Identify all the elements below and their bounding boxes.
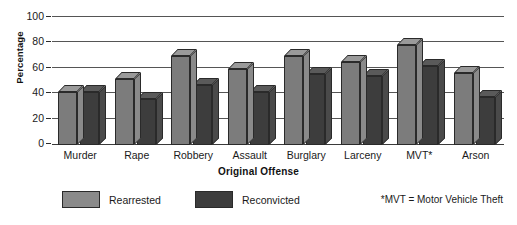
bar-side bbox=[473, 66, 480, 145]
y-tick-mark-60 bbox=[46, 67, 51, 68]
bar-group bbox=[222, 16, 279, 145]
y-tick-mark-20 bbox=[46, 118, 51, 119]
y-tick-mark-80 bbox=[46, 41, 51, 42]
bar-side bbox=[247, 62, 254, 145]
bar-side bbox=[190, 49, 197, 145]
bar-side bbox=[438, 60, 445, 145]
y-tick-label-100: 100 bbox=[14, 11, 44, 21]
bar-face bbox=[397, 45, 416, 145]
bar-murder-rearrested bbox=[58, 92, 77, 145]
legend-item-rearrested: Rearrested bbox=[62, 191, 161, 208]
y-tick-mark-40 bbox=[46, 92, 51, 93]
chart-legend: RearrestedReconvicted bbox=[62, 191, 334, 208]
bar-face bbox=[58, 92, 77, 145]
bar-face bbox=[341, 62, 360, 145]
bar-group bbox=[165, 16, 222, 145]
legend-label: Reconvicted bbox=[242, 194, 300, 206]
bar-face bbox=[228, 69, 247, 145]
bar-side bbox=[325, 67, 332, 145]
y-tick-label-80: 80 bbox=[14, 36, 44, 46]
legend-swatch-reconvicted bbox=[195, 191, 233, 208]
bar-arson-rearrested bbox=[454, 73, 473, 145]
x-tick-label-rape: Rape bbox=[109, 149, 166, 161]
bar-face bbox=[171, 56, 190, 145]
bar-side bbox=[303, 49, 310, 145]
x-tick-label-murder: Murder bbox=[52, 149, 109, 161]
bar-side bbox=[269, 85, 276, 145]
legend-item-reconvicted: Reconvicted bbox=[195, 191, 300, 208]
bar-side bbox=[212, 79, 219, 145]
x-tick-label-larceny: Larceny bbox=[335, 149, 392, 161]
x-tick-label-arson: Arson bbox=[448, 149, 505, 161]
bar-group bbox=[278, 16, 335, 145]
footnote-text: *MVT = Motor Vehicle Theft bbox=[381, 194, 503, 205]
bar-group bbox=[52, 16, 109, 145]
y-axis-tick-labels: 020406080100 bbox=[14, 0, 44, 225]
bar-side bbox=[77, 85, 84, 145]
bar-side bbox=[99, 85, 106, 145]
bar-side bbox=[156, 93, 163, 145]
bar-side bbox=[382, 70, 389, 145]
bar-side bbox=[360, 56, 367, 145]
bar-larceny-rearrested bbox=[341, 62, 360, 145]
bar-group bbox=[448, 16, 505, 145]
y-tick-label-40: 40 bbox=[14, 87, 44, 97]
bar-side bbox=[134, 72, 141, 145]
bar-chart: Percentage 020406080100 Original Offense… bbox=[0, 0, 517, 225]
bar-face bbox=[284, 56, 303, 145]
plot-area bbox=[52, 16, 504, 145]
bar-burglary-rearrested bbox=[284, 56, 303, 145]
legend-swatch-rearrested bbox=[62, 191, 100, 208]
x-tick-label-burglary: Burglary bbox=[278, 149, 335, 161]
x-tick-label-robbery: Robbery bbox=[165, 149, 222, 161]
bar-robbery-rearrested bbox=[171, 56, 190, 145]
y-tick-label-60: 60 bbox=[14, 62, 44, 72]
legend-label: Rearrested bbox=[109, 194, 161, 206]
y-tick-mark-0 bbox=[46, 143, 51, 144]
bar-side bbox=[416, 38, 423, 145]
bar-group bbox=[391, 16, 448, 145]
x-tick-label-mvt: MVT* bbox=[391, 149, 448, 161]
bar-face bbox=[454, 73, 473, 145]
y-tick-label-0: 0 bbox=[14, 138, 44, 148]
y-tick-mark-100 bbox=[46, 16, 51, 17]
bar-face bbox=[115, 79, 134, 145]
bar-rape-rearrested bbox=[115, 79, 134, 145]
x-axis-title: Original Offense bbox=[0, 166, 517, 177]
bar-group bbox=[335, 16, 392, 145]
bar-mvt-rearrested bbox=[397, 45, 416, 145]
bar-group bbox=[109, 16, 166, 145]
x-tick-label-assault: Assault bbox=[222, 149, 279, 161]
bar-side bbox=[495, 90, 502, 145]
bar-assault-rearrested bbox=[228, 69, 247, 145]
y-tick-label-20: 20 bbox=[14, 113, 44, 123]
